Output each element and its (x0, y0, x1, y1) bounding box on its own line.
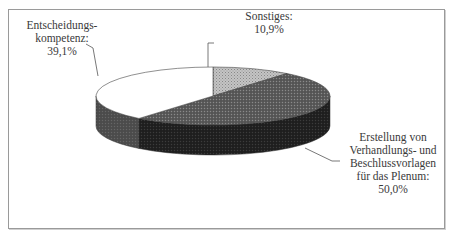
data-label-sonstiges: Sonstiges:10,9% (238, 10, 300, 36)
leader-line-1 (305, 148, 340, 161)
data-label-erstellung: Erstellung vonVerhandlungs- undBeschluss… (338, 131, 448, 196)
data-label-line: 50,0% (338, 183, 448, 196)
data-label-line: 39,1% (22, 45, 102, 58)
data-label-line: Sonstiges: (238, 10, 300, 23)
data-label-line: 10,9% (238, 23, 300, 36)
data-label-entscheidungskompetenz: Entscheidungs-kompetenz:39,1% (22, 19, 102, 58)
data-label-line: Erstellung von (338, 131, 448, 144)
pie-tops (96, 67, 330, 125)
leader-line-0 (208, 43, 214, 67)
data-label-line: Beschlussvorlagen (338, 157, 448, 170)
data-label-line: Entscheidungs- (22, 19, 102, 32)
data-label-line: Verhandlungs- und (338, 144, 448, 157)
data-label-line: für das Plenum: (338, 170, 448, 183)
data-label-line: kompetenz: (22, 32, 102, 45)
